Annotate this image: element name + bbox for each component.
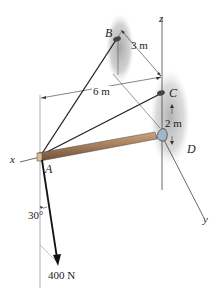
label-point-c: C — [169, 87, 177, 99]
rod-ad — [38, 132, 157, 161]
rod-end-a — [37, 153, 42, 161]
label-y-axis: y — [203, 214, 208, 225]
dim-6m-arrow-left — [41, 96, 46, 99]
label-x-axis: x — [10, 154, 15, 165]
label-point-d: D — [187, 143, 196, 155]
cable-ab — [41, 40, 116, 155]
diagram-canvas — [0, 0, 217, 293]
label-force-angle: 30° — [28, 210, 43, 221]
force-arrow-head — [53, 254, 61, 266]
force-component-guide — [40, 245, 57, 262]
label-dim-6m: 6 m — [92, 86, 111, 97]
label-force-magnitude: 400 N — [48, 270, 75, 281]
label-dim-bc: 3 m — [131, 40, 148, 51]
dim-3m-arrow-bottom — [157, 72, 161, 76]
label-point-b: B — [105, 27, 112, 39]
label-point-a: A — [45, 163, 52, 175]
label-z-axis: z — [159, 13, 163, 24]
label-dim-cd: 2 m — [165, 118, 182, 129]
